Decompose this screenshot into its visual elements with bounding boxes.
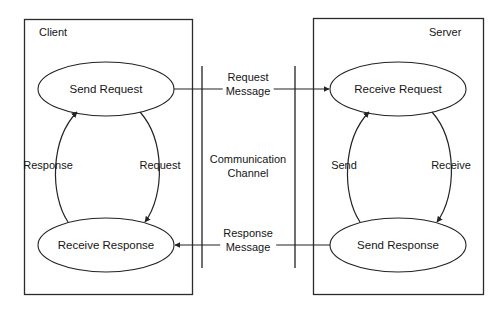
node-send-request-label: Send Request (70, 83, 143, 95)
edge-label-server-send: Send (331, 159, 357, 172)
edge-label-server-receive: Receive (431, 159, 471, 172)
diagram-canvas: Client Server Send Request Receive Respo… (0, 0, 495, 312)
node-receive-response-label: Receive Response (58, 239, 155, 251)
response-message-line1: Response (223, 226, 273, 240)
response-message-line2: Message (223, 240, 273, 254)
request-message-line1: Request (226, 70, 271, 84)
request-message-line2: Message (226, 84, 271, 98)
server-container-label: Server (429, 26, 461, 39)
node-send-response-label: Send Response (357, 239, 439, 251)
channel-label-line2: Channel (210, 166, 286, 180)
communication-channel-label: Communication Channel (207, 152, 289, 180)
edge-label-client-response: Response (23, 159, 73, 172)
edge-label-client-request: Request (140, 159, 181, 172)
node-receive-request-label: Receive Request (354, 83, 442, 95)
channel-label-line1: Communication (210, 152, 286, 166)
request-message-label: Request Message (223, 70, 274, 98)
client-container-label: Client (39, 26, 67, 39)
response-message-label: Response Message (220, 226, 276, 254)
